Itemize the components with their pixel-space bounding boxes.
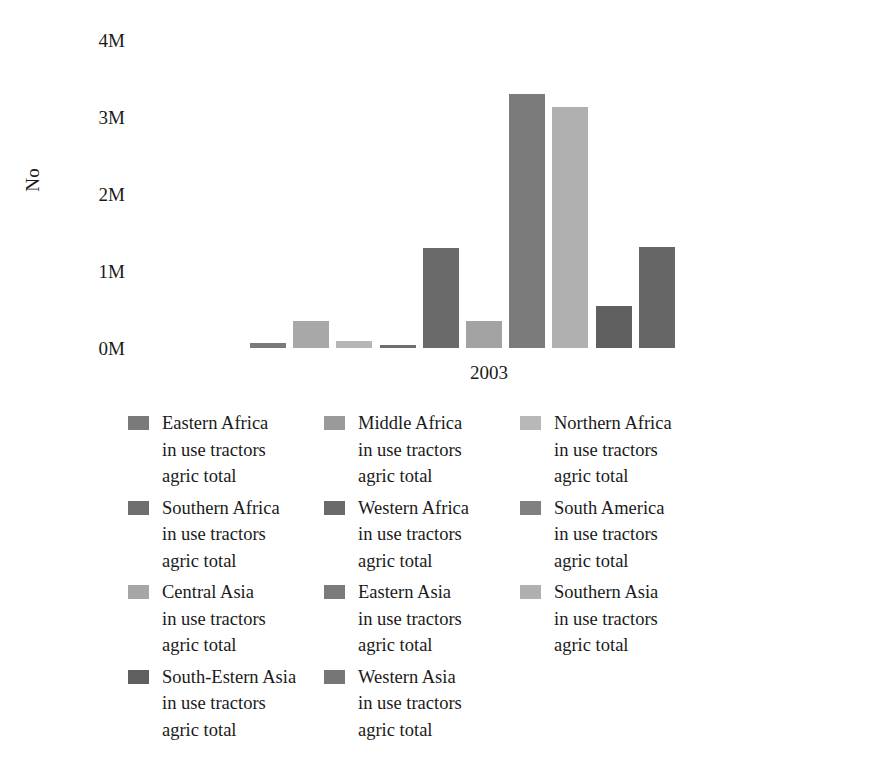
- bar-chart: No 4M3M2M1M0M 2003: [0, 0, 888, 400]
- legend-item[interactable]: Western Asia in use tractors agric total: [324, 664, 520, 748]
- bar: [250, 343, 286, 348]
- legend-swatch-icon: [520, 585, 541, 599]
- legend-label: Southern Africa in use tractors agric to…: [162, 495, 280, 575]
- bar: [596, 306, 632, 348]
- legend-item[interactable]: Southern Asia in use tractors agric tota…: [520, 579, 730, 663]
- legend-label: South America in use tractors agric tota…: [554, 495, 664, 575]
- legend-label: Western Asia in use tractors agric total: [358, 664, 462, 744]
- legend-label: Western Africa in use tractors agric tot…: [358, 495, 469, 575]
- legend-swatch-icon: [324, 416, 345, 430]
- bar: [380, 345, 416, 348]
- legend-item[interactable]: Middle Africa in use tractors agric tota…: [324, 410, 520, 494]
- legend-label: Middle Africa in use tractors agric tota…: [358, 410, 462, 490]
- plot-area: [140, 40, 860, 348]
- bar: [639, 247, 675, 348]
- bar: [509, 94, 545, 348]
- legend-swatch-icon: [520, 416, 541, 430]
- y-tick-label: 3M: [65, 108, 125, 127]
- bar-series: [140, 40, 860, 348]
- legend-item[interactable]: Eastern Africa in use tractors agric tot…: [128, 410, 324, 494]
- y-tick-label: 0M: [65, 339, 125, 358]
- legend-swatch-icon: [128, 585, 149, 599]
- legend-label: Eastern Asia in use tractors agric total: [358, 579, 462, 659]
- bar: [466, 321, 502, 348]
- y-tick-label: 1M: [65, 262, 125, 281]
- legend-swatch-icon: [324, 585, 345, 599]
- y-tick-label: 2M: [65, 185, 125, 204]
- legend-swatch-icon: [128, 416, 149, 430]
- legend-label: Northern Africa in use tractors agric to…: [554, 410, 672, 490]
- legend-item[interactable]: Western Africa in use tractors agric tot…: [324, 495, 520, 579]
- legend-item[interactable]: South America in use tractors agric tota…: [520, 495, 730, 579]
- y-axis-tick-labels: 4M3M2M1M0M: [20, 0, 125, 400]
- legend-item[interactable]: Southern Africa in use tractors agric to…: [128, 495, 324, 579]
- x-axis-label: 2003: [0, 362, 888, 384]
- y-tick-label: 4M: [65, 31, 125, 50]
- bar: [293, 321, 329, 348]
- bar: [336, 341, 372, 348]
- bar: [552, 107, 588, 348]
- legend-item[interactable]: South-Estern Asia in use tractors agric …: [128, 664, 324, 748]
- legend-swatch-icon: [128, 501, 149, 515]
- bar: [423, 248, 459, 348]
- legend-item[interactable]: Northern Africa in use tractors agric to…: [520, 410, 730, 494]
- legend-swatch-icon: [128, 670, 149, 684]
- legend-label: Central Asia in use tractors agric total: [162, 579, 266, 659]
- chart-legend: Eastern Africa in use tractors agric tot…: [128, 410, 828, 747]
- legend-swatch-icon: [324, 501, 345, 515]
- legend-label: Southern Asia in use tractors agric tota…: [554, 579, 658, 659]
- legend-item[interactable]: Eastern Asia in use tractors agric total: [324, 579, 520, 663]
- legend-swatch-icon: [520, 501, 541, 515]
- legend-label: South-Estern Asia in use tractors agric …: [162, 664, 296, 744]
- legend-swatch-icon: [324, 670, 345, 684]
- legend-item[interactable]: Central Asia in use tractors agric total: [128, 579, 324, 663]
- legend-label: Eastern Africa in use tractors agric tot…: [162, 410, 268, 490]
